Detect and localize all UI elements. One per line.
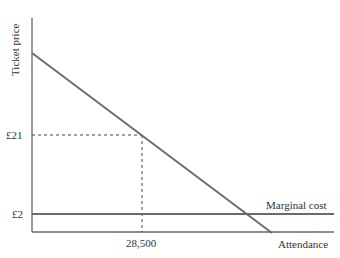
marginal-cost-label: Marginal cost [266, 200, 327, 211]
y-tick-21: £21 [6, 130, 23, 141]
x-tick-28500: 28,500 [126, 238, 156, 249]
demand-line [32, 53, 272, 233]
x-axis-label: Attendance [278, 239, 328, 250]
y-axis-label: Ticket price [9, 24, 21, 76]
chart-canvas [0, 0, 340, 258]
y-tick-2: £2 [12, 209, 23, 220]
